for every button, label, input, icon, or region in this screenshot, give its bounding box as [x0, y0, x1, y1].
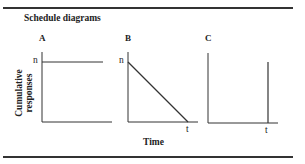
panel-b-plot: [128, 52, 198, 122]
panel-c-plot: [208, 53, 278, 123]
bottom-rule: [3, 156, 293, 158]
panel-a-plot: [42, 52, 112, 122]
schedule-plots: [0, 0, 305, 164]
